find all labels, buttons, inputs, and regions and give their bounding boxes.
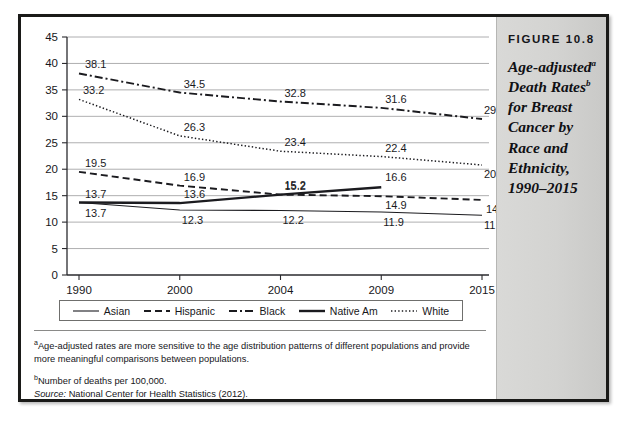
y-axis-tick-label: 20 bbox=[45, 163, 58, 175]
x-axis-tick-label: 2000 bbox=[167, 284, 193, 296]
data-point-label: 26.3 bbox=[184, 121, 205, 133]
legend-item[interactable]: Hispanic bbox=[144, 305, 215, 317]
figure-title: Age-adjustedaDeath Ratesbfor BreastCance… bbox=[508, 57, 597, 198]
figure-caption-panel: FIGURE 10.8 Age-adjustedaDeath Ratesbfor… bbox=[496, 17, 606, 399]
figure-title-line: Age-adjusteda bbox=[508, 57, 597, 77]
data-point-label: 16.6 bbox=[385, 171, 406, 183]
data-point-label: 15.2 bbox=[285, 179, 306, 191]
chart-legend: AsianHispanicBlackNative AmWhite bbox=[59, 300, 463, 321]
x-axis-tick-label: 2015 bbox=[469, 284, 495, 296]
y-axis-tick-label: 5 bbox=[52, 243, 58, 255]
y-axis-tick-label: 10 bbox=[45, 216, 58, 228]
legend-line-swatch bbox=[391, 306, 417, 316]
data-point-label: 19.5 bbox=[85, 157, 106, 169]
data-point-label: 11.9 bbox=[383, 216, 404, 228]
data-point-label: 32.8 bbox=[285, 87, 306, 99]
data-point-label: 13.7 bbox=[85, 207, 106, 219]
legend-label: White bbox=[422, 305, 449, 317]
legend-item[interactable]: White bbox=[391, 305, 449, 317]
data-point-label: 13.6 bbox=[184, 188, 205, 200]
figure-number: FIGURE 10.8 bbox=[508, 33, 597, 45]
y-axis-tick-label: 45 bbox=[45, 31, 58, 43]
figure-title-line: Ethnicity, bbox=[508, 158, 597, 178]
data-point-label: 31.6 bbox=[385, 93, 406, 105]
data-point-label: 12.3 bbox=[182, 214, 203, 226]
footnote-b: bNumber of deaths per 100,000. bbox=[34, 373, 486, 388]
figure-container: 0510152025303540451990200020042009201513… bbox=[18, 14, 609, 402]
data-point-label: 12.2 bbox=[283, 214, 304, 226]
y-axis-tick-label: 25 bbox=[45, 137, 58, 149]
legend-label: Native Am bbox=[330, 305, 378, 317]
figure-title-line: Race and bbox=[508, 138, 597, 158]
x-axis-tick-label: 2009 bbox=[368, 284, 394, 296]
figure-title-line: Death Ratesb bbox=[508, 77, 597, 97]
series-line bbox=[79, 73, 482, 118]
source-text: National Center for Health Statistics (2… bbox=[66, 389, 248, 399]
y-axis-tick-label: 30 bbox=[45, 110, 58, 122]
series-line bbox=[79, 99, 482, 165]
x-axis-tick-label: 2004 bbox=[268, 284, 294, 296]
legend-line-swatch bbox=[73, 306, 99, 316]
legend-line-swatch bbox=[144, 306, 170, 316]
data-point-label: 16.9 bbox=[184, 171, 205, 183]
data-point-label: 23.4 bbox=[285, 136, 306, 148]
data-point-label: 14.9 bbox=[385, 199, 406, 211]
figure-title-line: for Breast bbox=[508, 97, 597, 117]
title-sup-a: a bbox=[592, 58, 597, 68]
footnotes-block: aAge-adjusted rates are more sensitive t… bbox=[34, 330, 486, 401]
legend-item[interactable]: Native Am bbox=[299, 305, 378, 317]
footnote-a: aAge-adjusted rates are more sensitive t… bbox=[34, 338, 486, 365]
line-chart: 0510152025303540451990200020042009201513… bbox=[27, 23, 497, 301]
source-label: Source: bbox=[34, 389, 66, 399]
y-axis-tick-label: 15 bbox=[45, 190, 58, 202]
legend-label: Black bbox=[260, 305, 286, 317]
footnote-a-text: Age-adjusted rates are more sensitive to… bbox=[34, 341, 470, 364]
legend-item[interactable]: Black bbox=[229, 305, 286, 317]
y-axis-tick-label: 35 bbox=[45, 84, 58, 96]
y-axis-tick-label: 0 bbox=[52, 269, 58, 281]
legend-item[interactable]: Asian bbox=[73, 305, 130, 317]
data-point-label: 22.4 bbox=[385, 142, 406, 154]
figure-title-line: 1990–2015 bbox=[508, 178, 597, 198]
data-point-label: 34.5 bbox=[184, 78, 205, 90]
data-point-label: 38.1 bbox=[85, 58, 106, 70]
data-point-label: 33.2 bbox=[83, 84, 104, 96]
series-line bbox=[79, 203, 482, 216]
figure-title-line: Cancer by bbox=[508, 117, 597, 137]
data-point-label: 13.7 bbox=[85, 188, 106, 200]
title-sup-b: b bbox=[586, 78, 591, 88]
legend-line-swatch bbox=[299, 306, 325, 316]
legend-label: Asian bbox=[104, 305, 130, 317]
footnote-source: Source: National Center for Health Stati… bbox=[34, 388, 486, 401]
x-axis-tick-label: 1990 bbox=[66, 284, 92, 296]
legend-line-swatch bbox=[229, 306, 255, 316]
footnote-b-text: Number of deaths per 100,000. bbox=[38, 376, 167, 386]
legend-label: Hispanic bbox=[175, 305, 215, 317]
y-axis-tick-label: 40 bbox=[45, 57, 58, 69]
